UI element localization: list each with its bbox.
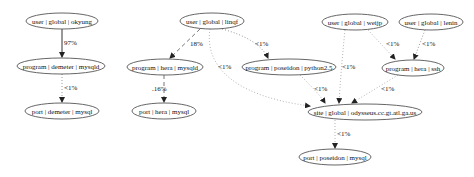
edge-label: <1%	[422, 40, 435, 48]
node-poseidon_python[interactable]: program | poseidon | python2.5	[242, 59, 336, 75]
node-label: port | demeter | mysql	[32, 108, 93, 116]
node-label: program | demeter | mysqld	[23, 63, 100, 71]
node-label: port | hera | mysql	[139, 108, 189, 116]
edge-label: <1%	[255, 40, 268, 48]
edge-label: <1%	[381, 85, 394, 93]
node-weijp[interactable]: user | global | weijp	[322, 14, 388, 30]
edge-label: 18%	[190, 40, 203, 48]
edge-weijp-to-hera_ssh: <1%	[368, 30, 399, 59]
node-hera_ssh[interactable]: program | hera | ssh	[382, 60, 444, 76]
node-hera_port[interactable]: port | hera | mysql	[132, 103, 196, 119]
node-linqf[interactable]: user | global | linqf	[180, 13, 244, 29]
edge-linqf-to-hera_mysqld: 18%	[170, 29, 203, 58]
node-label: program | hera | ssh	[386, 65, 441, 73]
edge-label: <1%	[386, 40, 399, 48]
node-label: program | poseidon | python2.5	[246, 64, 333, 72]
edge-hera_ssh-to-site: <1%	[352, 75, 398, 103]
edge-poseidon_python-to-site: <1%	[300, 75, 327, 103]
node-demeter_mysqld[interactable]: program | demeter | mysqld	[17, 58, 105, 74]
node-poseidon_port[interactable]: port | poseidon | mysql	[299, 149, 371, 165]
edge-label: <1%	[314, 85, 327, 93]
node-label: user | global | lenin	[405, 19, 458, 27]
node-label: program | hera | mysqld	[132, 64, 199, 72]
edge-linqf-to-poseidon_python: <1%	[222, 29, 268, 58]
edge-okyung-to-demeter_mysqld: 97%	[62, 29, 77, 57]
node-site[interactable]: site | global | odysseus.cc.gt.atl.ga.us	[308, 104, 422, 120]
node-label: port | poseidon | mysql	[303, 154, 367, 162]
edge-demeter_mysqld-to-demeter_port: <1%	[62, 74, 77, 102]
node-label: site | global | odysseus.cc.gt.atl.ga.us	[314, 109, 417, 117]
edge-label: <1%	[342, 63, 355, 71]
node-demeter_port[interactable]: port | demeter | mysql	[25, 103, 99, 119]
edge-label: .16%	[152, 85, 167, 93]
edge-lenin-to-hera_ssh: <1%	[414, 30, 435, 59]
nodes-layer: user | global | okyunguser | global | li…	[17, 13, 463, 165]
edges-layer: 97%<1%18%.16%<1%<1%<1%<1%<1%<1%<1%<1%	[62, 29, 435, 148]
node-label: user | global | linqf	[186, 18, 239, 26]
edge-label: 97%	[64, 39, 77, 47]
node-label: user | global | weijp	[328, 19, 383, 27]
node-okyung[interactable]: user | global | okyung	[26, 13, 98, 29]
edge-label: <1%	[337, 130, 350, 138]
edge-label: <1%	[64, 84, 77, 92]
edge-site-to-poseidon_port: <1%	[335, 120, 350, 148]
node-lenin[interactable]: user | global | lenin	[399, 14, 463, 30]
node-label: user | global | okyung	[32, 18, 92, 26]
edge-weijp-to-site: <1%	[339, 30, 355, 103]
edge-label: <1%	[218, 63, 231, 71]
edge-hera_mysqld-to-hera_port: .16%	[152, 75, 167, 102]
dependency-graph: 97%<1%18%.16%<1%<1%<1%<1%<1%<1%<1%<1% us…	[0, 0, 474, 177]
node-hera_mysqld[interactable]: program | hera | mysqld	[127, 59, 203, 75]
